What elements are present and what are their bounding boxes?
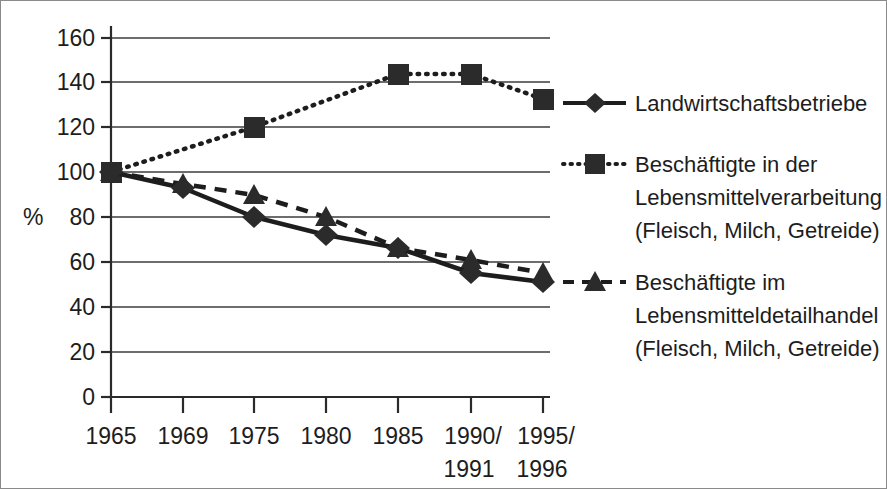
legend-marker-square-icon (585, 154, 605, 174)
data-point-square-1985 (388, 64, 409, 85)
legend-item-lebensmitteldetailhandel[interactable]: Beschäftigte im Lebensmitteldetailhandel… (563, 270, 880, 361)
legend-label-1-line-1: Lebensmittelverarbeitung (635, 185, 882, 210)
x-tick-label-5: 1990/ (444, 423, 502, 449)
x-tick-label-6: 1995/ (517, 423, 575, 449)
line-chart: 160 140 120 100 80 60 40 20 0 % 1965 196… (1, 1, 887, 489)
chart-legend: Landwirtschaftsbetriebe Beschäftigte in … (563, 91, 882, 361)
y-tick-label-120: 120 (57, 114, 95, 140)
x-tick-label-1: 1969 (157, 423, 208, 449)
legend-item-lebensmittelverarbeitung[interactable]: Beschäftigte in der Lebensmittelverarbei… (563, 152, 882, 243)
x-tick-label-5-second: 1991 (443, 456, 494, 482)
legend-label-1-line-0: Beschäftigte in der (635, 152, 817, 177)
series-lebensmitteldetailhandel (100, 161, 554, 282)
y-tick-label-40: 40 (69, 294, 95, 320)
legend-label-2-line-2: (Fleisch, Milch, Getreide) (635, 336, 880, 361)
series-landwirtschaftsbetriebe (99, 161, 555, 293)
y-axis-title: % (23, 204, 43, 230)
y-tick-label-140: 140 (57, 69, 95, 95)
y-tick-label-60: 60 (69, 249, 95, 275)
chart-figure: 160 140 120 100 80 60 40 20 0 % 1965 196… (0, 0, 887, 489)
x-tick-label-4: 1985 (372, 423, 423, 449)
x-tick-label-2: 1975 (228, 423, 279, 449)
x-tick-labels: 1965 1969 1975 1980 1985 1990/ 1991 1995… (85, 423, 575, 482)
legend-label-0-line-0: Landwirtschaftsbetriebe (635, 91, 867, 116)
series-line-squares (111, 74, 543, 172)
y-tick-label-20: 20 (69, 339, 95, 365)
data-point-diamond-1975 (242, 206, 266, 228)
x-tick-label-3: 1980 (300, 423, 351, 449)
y-tick-label-100: 100 (57, 159, 95, 185)
data-point-diamond-1980 (314, 224, 338, 246)
y-tick-label-0: 0 (82, 384, 95, 410)
data-point-square-1975 (244, 117, 265, 138)
data-point-diamond-1969 (171, 177, 195, 199)
legend-label-1-line-2: (Fleisch, Milch, Getreide) (635, 218, 880, 243)
y-tick-label-160: 160 (57, 25, 95, 51)
x-tick-label-0: 1965 (85, 423, 136, 449)
legend-label-2-line-1: Lebensmitteldetailhandel (635, 303, 878, 328)
legend-item-landwirtschaftsbetriebe[interactable]: Landwirtschaftsbetriebe (563, 91, 867, 116)
y-tick-marks (101, 38, 111, 397)
x-tick-label-6-second: 1996 (516, 456, 567, 482)
legend-label-2-line-0: Beschäftigte im (635, 270, 785, 295)
data-point-square-1990 (461, 64, 482, 85)
y-tick-labels: 160 140 120 100 80 60 40 20 0 (57, 25, 95, 410)
legend-marker-diamond-icon (584, 93, 606, 113)
data-point-diamond-1995 (531, 271, 555, 293)
gridlines (111, 38, 550, 352)
x-tick-marks (111, 397, 543, 413)
data-point-square-1995 (533, 89, 554, 110)
y-tick-label-80: 80 (69, 204, 95, 230)
